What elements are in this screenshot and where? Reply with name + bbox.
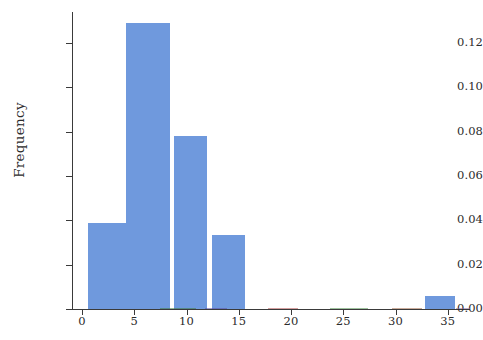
y-axis-tick: [66, 309, 72, 310]
y-axis-tick-label: 0.04: [421, 214, 483, 226]
histogram-bar: [174, 136, 207, 309]
y-axis-tick: [66, 87, 72, 88]
baseline-artifact: [160, 308, 196, 309]
x-axis-tick-label: 25: [323, 316, 363, 328]
y-axis-tick: [66, 43, 72, 44]
y-axis-tick-label: 0.02: [421, 259, 483, 271]
y-axis-tick: [66, 132, 72, 133]
y-axis-tick: [66, 176, 72, 177]
x-axis-tick-label: 5: [114, 316, 154, 328]
x-axis-line: [72, 309, 470, 310]
baseline-artifact: [456, 308, 470, 309]
y-axis-title: Frequency: [11, 85, 27, 195]
y-axis-tick: [66, 220, 72, 221]
baseline-artifact: [205, 308, 227, 309]
baseline-artifact: [268, 308, 298, 309]
histogram-figure: Frequency 0.000.020.040.060.080.100.1205…: [0, 0, 483, 340]
y-axis-tick: [66, 265, 72, 266]
x-axis-tick-label: 35: [428, 316, 468, 328]
x-axis-tick-label: 15: [219, 316, 259, 328]
y-axis-tick-label: 0.08: [421, 126, 483, 138]
y-axis-line: [72, 12, 73, 310]
x-axis-tick-label: 20: [271, 316, 311, 328]
histogram-bar: [425, 296, 455, 309]
y-axis-tick-label: 0.12: [421, 37, 483, 49]
baseline-artifact: [392, 308, 422, 309]
histogram-bar: [88, 223, 130, 309]
y-axis-tick-label: 0.10: [421, 81, 483, 93]
x-axis-tick-label: 0: [62, 316, 102, 328]
histogram-bar: [126, 23, 170, 309]
histogram-bar: [212, 235, 245, 309]
x-axis-tick-label: 10: [167, 316, 207, 328]
baseline-artifact: [330, 308, 368, 309]
plot-area: Frequency 0.000.020.040.060.080.100.1205…: [0, 0, 483, 340]
y-axis-tick-label: 0.06: [421, 170, 483, 182]
x-axis-tick-label: 30: [376, 316, 416, 328]
